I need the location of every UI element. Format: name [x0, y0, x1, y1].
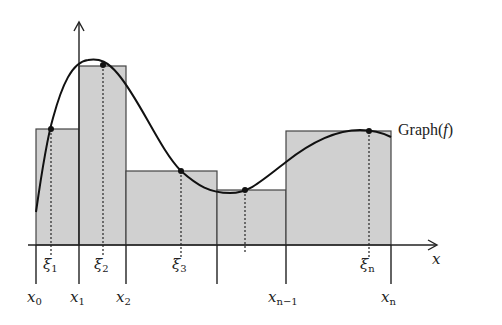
curve-label: Graph(f) — [398, 121, 453, 139]
partition-label-x1: x1 — [70, 290, 85, 307]
partition-label-x0: x0 — [27, 290, 42, 307]
partition-label-x2: x2 — [116, 290, 131, 307]
x-axis-label: x — [432, 252, 440, 267]
rectangle-1 — [36, 129, 79, 245]
sample-label-xin: ξn — [360, 257, 375, 274]
curve-label-prefix: Graph( — [398, 121, 443, 138]
rectangle-n — [286, 131, 391, 245]
sample-label-xi1: ξ1 — [43, 257, 58, 274]
partition-label-xn-1: xn−1 — [268, 290, 298, 307]
riemann-sum-diagram — [0, 0, 502, 325]
sample-label-xi2: ξ2 — [94, 257, 109, 274]
partition-ticks — [36, 245, 391, 284]
rectangle-3 — [126, 171, 217, 245]
x-axis-label-text: x — [432, 250, 440, 268]
partition-label-xn: xn — [381, 290, 396, 307]
sample-label-xi3: ξ3 — [172, 257, 187, 274]
curve-label-suffix: ) — [448, 121, 453, 138]
riemann-rectangles — [36, 66, 391, 245]
rectangle-4 — [217, 190, 286, 245]
